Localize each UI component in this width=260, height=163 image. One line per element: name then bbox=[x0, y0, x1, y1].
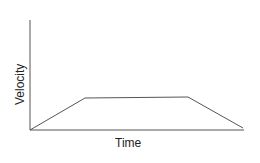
velocity-time-diagram: Time Velocity bbox=[0, 0, 260, 163]
velocity-profile-line bbox=[30, 97, 243, 130]
x-axis-label: Time bbox=[115, 136, 142, 150]
y-axis-label: Velocity bbox=[13, 64, 27, 105]
